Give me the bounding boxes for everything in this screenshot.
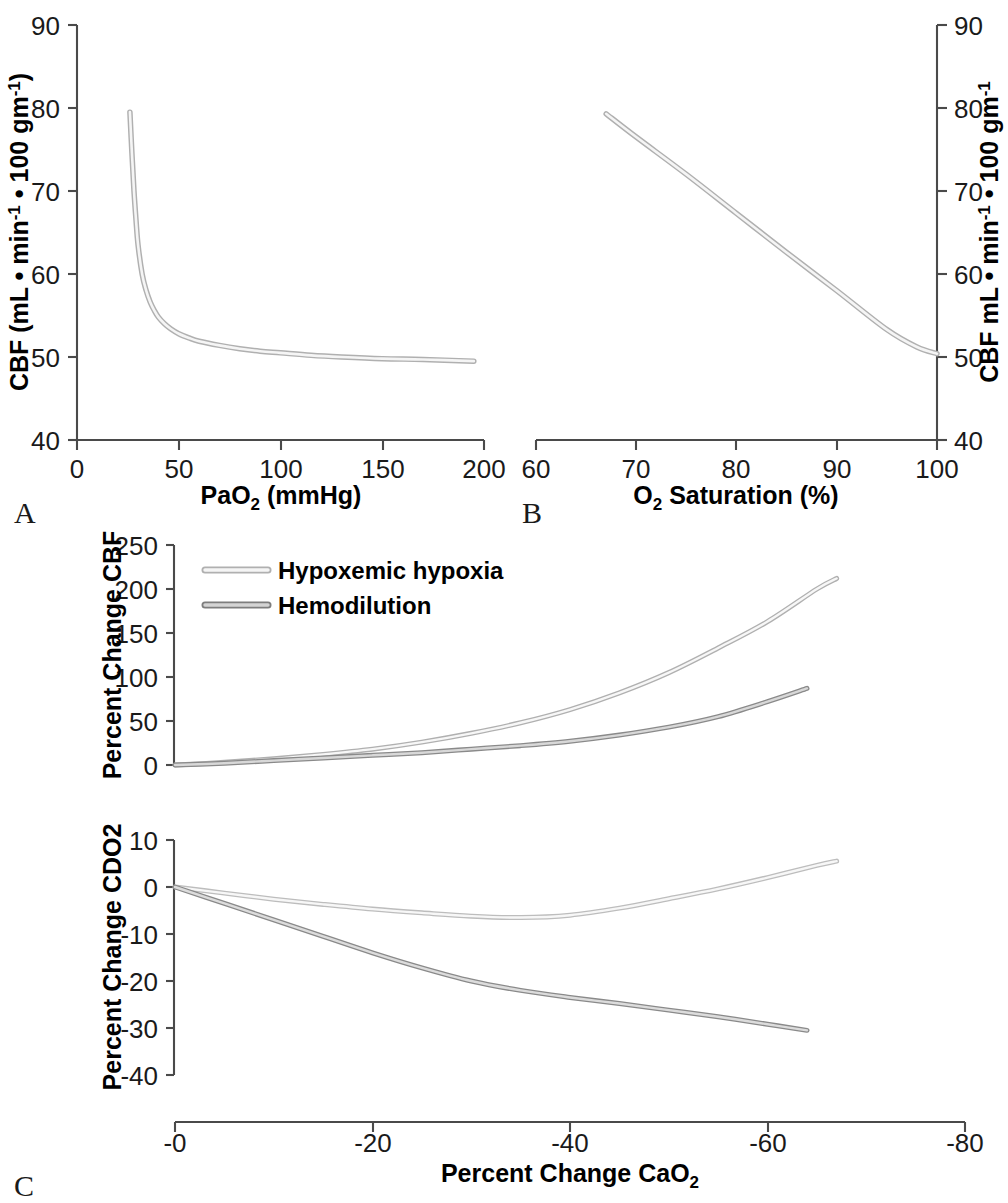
panel-c-bottom-y-label-neg30: -30 [120,1014,158,1044]
panel-b-letter: B [522,496,542,529]
panel-c-bottom: -40 -30 -20 -10 0 10 Percent Change CDO2 [98,824,837,1091]
legend-label-hemodilution: Hemodilution [278,592,431,619]
panel-a-x-axis-title: PaO2 (mmHg) [201,481,362,514]
panel-a-x-label-200: 200 [462,454,505,484]
panel-a-y-axis-title: CBF (mL • min-1 • 100 gm-1) [5,73,33,391]
panel-a-y-label-70: 70 [31,177,60,207]
panel-c-x-label-neg20: -20 [354,1128,392,1158]
panel-c-bottom-y-label-0: 0 [144,873,158,903]
panel-a-x-label-0: 0 [70,454,84,484]
panel-c-top-curve-hypoxemic [175,578,837,765]
panel-a-y-label-40: 40 [31,426,60,456]
panel-b-x-label-90: 90 [823,454,852,484]
panel-b-curve-outline [606,114,937,354]
figure-svg: 40 50 60 70 80 90 0 50 100 150 200 PaO2 … [0,0,1008,1203]
panel-c-top-y-label-0: 0 [144,751,158,781]
panel-c-legend: Hypoxemic hypoxia Hemodilution [205,557,504,619]
panel-c-x-axis-group: -0 -20 -40 -60 -80 Percent Change CaO2 C [14,1122,984,1202]
panel-b-x-label-80: 80 [722,454,751,484]
panel-a-x-label-50: 50 [165,454,194,484]
panel-c-x-axis-title: Percent Change CaO2 [441,1159,699,1192]
panel-b-y-label-90: 90 [954,11,983,41]
panel-a-y-label-60: 60 [31,260,60,290]
panel-a: 40 50 60 70 80 90 0 50 100 150 200 PaO2 … [5,11,506,529]
panel-a-curve-outline [130,112,474,361]
figure-root: 40 50 60 70 80 90 0 50 100 150 200 PaO2 … [0,0,1008,1203]
panel-b-x-label-60: 60 [522,454,551,484]
panel-b-y-label-40: 40 [954,426,983,456]
panel-c-x-label-neg40: -40 [551,1128,589,1158]
panel-c-bottom-y-axis-title: Percent Change CDO2 [98,824,126,1091]
panel-c-top-curve-hypoxemic-outline [175,578,837,765]
panel-c-bottom-curve-hypoxemic-outline [175,861,837,917]
panel-a-letter: A [14,496,36,529]
panel-c-bottom-y-label-10: 10 [129,826,158,856]
panel-c-top-y-axis-title: Percent Change CBF [98,531,126,780]
panel-c-bottom-y-label-neg10: -10 [120,920,158,950]
panel-a-y-label-50: 50 [31,343,60,373]
panel-c-x-label-neg60: -60 [749,1128,787,1158]
panel-b-y-axis-title: CBF mL • min-1 • 100 gm-1 [975,81,1003,383]
panel-c-bottom-y-label-neg20: -20 [120,967,158,997]
legend-label-hypoxemic-hypoxia: Hypoxemic hypoxia [278,557,504,584]
panel-c-x-label-0: -0 [163,1128,186,1158]
panel-c-bottom-curve-hypoxemic [175,861,837,917]
panel-c-top-curve-hemodilution-outline [175,688,807,765]
panel-c-top: 0 50 100 150 200 250 Percent Change CBF … [98,531,837,781]
panel-a-x-label-100: 100 [259,454,302,484]
panel-c-top-y-label-50: 50 [129,707,158,737]
panel-b-x-label-100: 100 [915,454,958,484]
panel-c-bottom-curve-hemodilution-outline [175,887,807,1030]
panel-b-x-label-70: 70 [622,454,651,484]
panel-a-curve [130,112,474,361]
panel-c-top-curve-hemodilution [175,688,807,765]
panel-b-x-axis-title: O2 Saturation (%) [633,481,838,514]
panel-a-x-label-150: 150 [361,454,404,484]
panel-c-letter: C [14,1169,34,1202]
panel-c-bottom-y-label-neg40: -40 [120,1061,158,1091]
panel-a-y-label-90: 90 [31,11,60,41]
panel-a-y-label-80: 80 [31,94,60,124]
panel-c-bottom-curve-hemodilution [175,887,807,1030]
panel-b: 40 50 60 70 80 90 60 70 80 90 100 O2 Sat… [522,11,1003,529]
panel-c-x-label-neg80: -80 [946,1128,984,1158]
